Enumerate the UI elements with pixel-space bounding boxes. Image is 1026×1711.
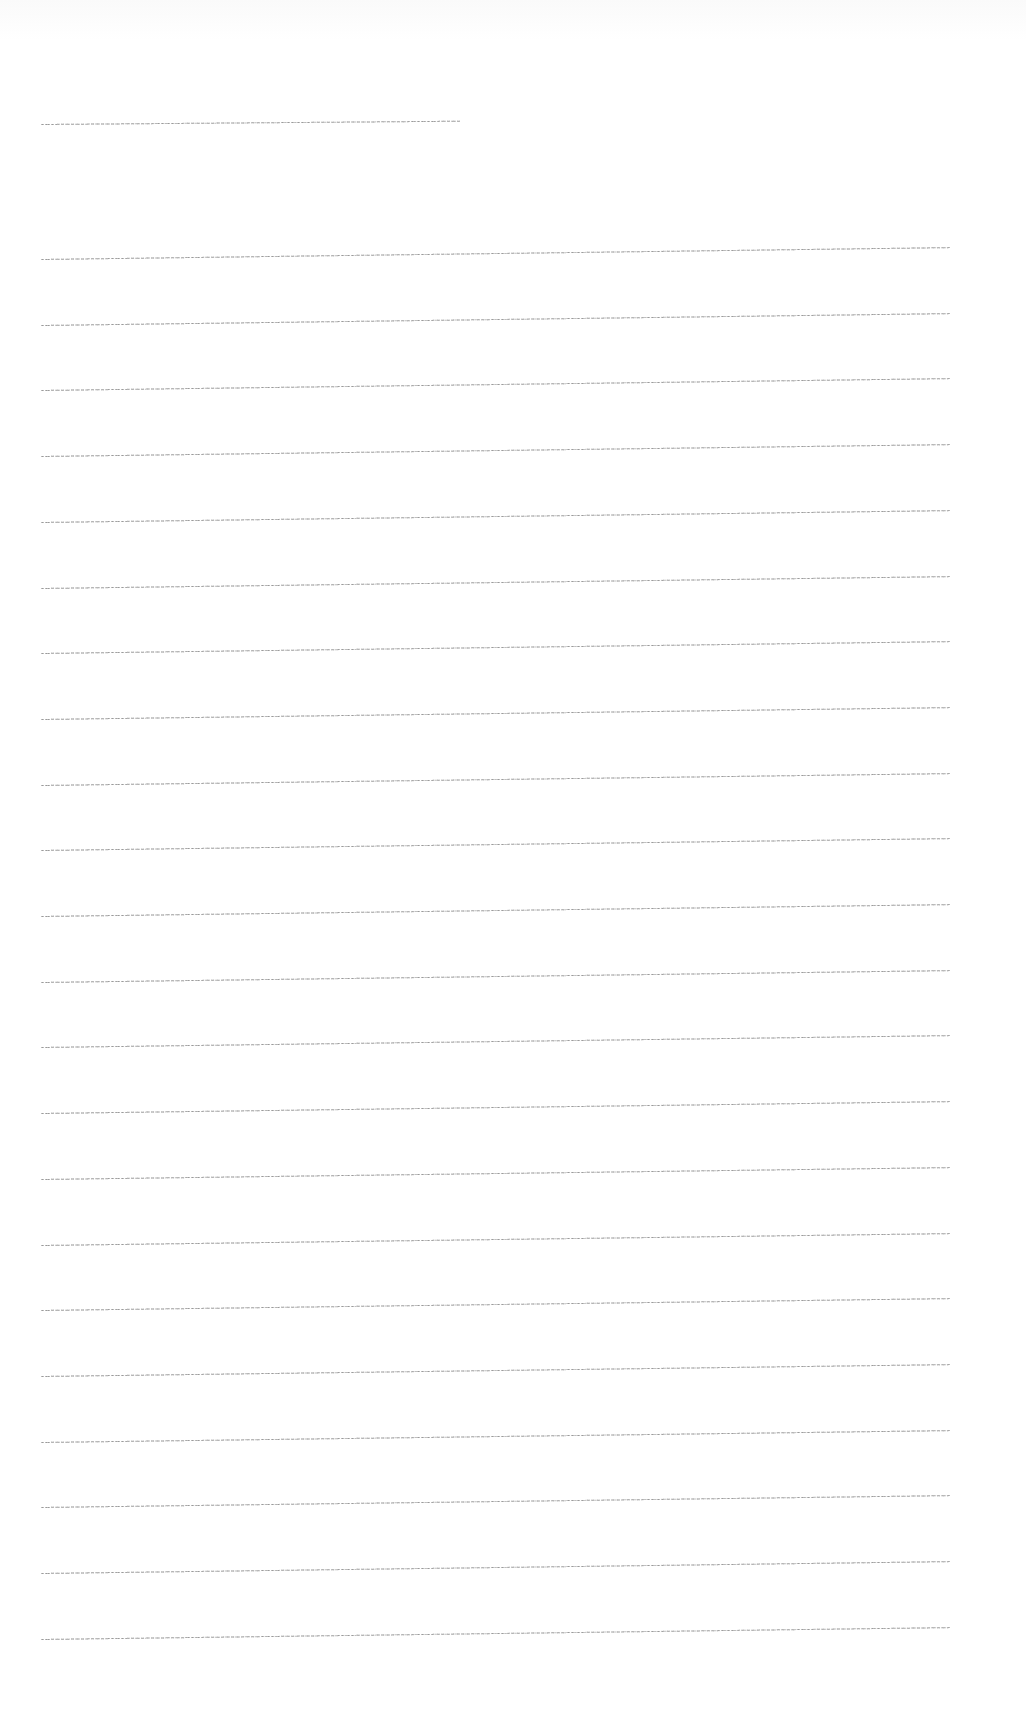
- ruled-line: [41, 1561, 950, 1574]
- ruled-line: [41, 510, 950, 523]
- ruled-line: [41, 313, 950, 326]
- ruled-line: [41, 838, 950, 851]
- ruled-line: [41, 970, 950, 983]
- ruled-line: [41, 1495, 950, 1508]
- ruled-line: [41, 1167, 950, 1180]
- ruled-line: [41, 576, 950, 589]
- ruled-line: [41, 1233, 950, 1246]
- scan-bleed-through: [0, 0, 1026, 40]
- ruled-line: [41, 773, 950, 786]
- ruled-line: [41, 1364, 950, 1377]
- ruled-line: [41, 1035, 950, 1048]
- ruled-line: [41, 1101, 950, 1114]
- ruled-line: [41, 1627, 950, 1640]
- ruled-line: [41, 707, 950, 720]
- lined-page: [0, 0, 1026, 1711]
- ruled-line: [41, 904, 950, 917]
- ruled-line: [41, 444, 950, 457]
- header-line: [41, 121, 460, 125]
- ruled-line: [41, 378, 950, 391]
- ruled-line: [41, 1430, 950, 1443]
- ruled-line: [41, 641, 950, 654]
- ruled-line: [41, 1298, 950, 1311]
- ruled-line: [41, 247, 950, 260]
